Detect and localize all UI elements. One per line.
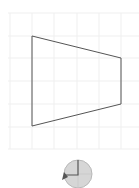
background-grid	[8, 13, 139, 149]
rotate-dial-icon	[62, 160, 92, 188]
rotate-handle[interactable]	[62, 158, 94, 188]
